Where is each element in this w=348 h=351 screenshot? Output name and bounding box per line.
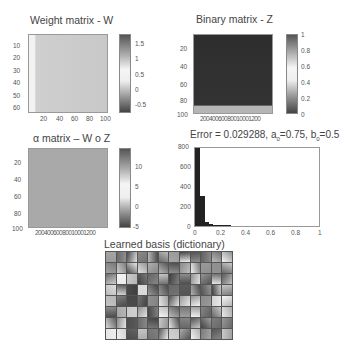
x-tick: 40 bbox=[56, 115, 63, 122]
basis-tile bbox=[106, 274, 116, 284]
basis-tile bbox=[212, 274, 222, 284]
basis-tile bbox=[201, 263, 211, 273]
basis-tile bbox=[169, 274, 179, 284]
x-tick: 0.4 bbox=[241, 229, 250, 236]
y-tick: 60 bbox=[13, 104, 20, 111]
basis-tile bbox=[180, 252, 190, 262]
colorbar-tick: 0 bbox=[135, 86, 139, 93]
y-tick: 100 bbox=[12, 225, 23, 232]
basis-tile bbox=[212, 318, 222, 328]
basis-tile bbox=[169, 307, 179, 317]
basis-tile bbox=[138, 252, 148, 262]
basis-tile bbox=[148, 274, 158, 284]
basis-tile bbox=[159, 263, 169, 273]
basis-tile bbox=[191, 307, 201, 317]
basis-tile bbox=[138, 296, 148, 306]
basis-tile bbox=[148, 307, 158, 317]
basis-tile bbox=[148, 263, 158, 273]
basis-tile bbox=[191, 296, 201, 306]
error-histogram-plot bbox=[194, 147, 320, 227]
colorbar-tick: 0.5 bbox=[135, 71, 144, 78]
basis-tile bbox=[117, 285, 127, 295]
basis-tile bbox=[159, 296, 169, 306]
basis-tile bbox=[106, 318, 116, 328]
colorbar-tick: 0.8 bbox=[301, 47, 310, 54]
basis-tile bbox=[201, 318, 211, 328]
basis-tile bbox=[180, 263, 190, 273]
basis-tile bbox=[138, 263, 148, 273]
basis-tile bbox=[159, 274, 169, 284]
dictionary-title: Learned basis (dictionary) bbox=[104, 238, 225, 250]
basis-tile bbox=[117, 252, 127, 262]
y-tick: 0 bbox=[187, 223, 191, 230]
binary-matrix-colorbar bbox=[286, 34, 298, 114]
basis-tile bbox=[180, 318, 190, 328]
x-tick: 60 bbox=[71, 115, 78, 122]
basis-tile bbox=[222, 329, 232, 339]
x-tick: 100 bbox=[100, 115, 111, 122]
alpha-matrix-title: α matrix – W o Z bbox=[33, 132, 110, 144]
y-tick: 10 bbox=[13, 42, 20, 49]
basis-tile bbox=[148, 329, 158, 339]
weight-matrix-title: Weight matrix - W bbox=[30, 14, 113, 26]
basis-tile bbox=[106, 285, 116, 295]
x-ticks: 20040060080010001200 bbox=[35, 229, 95, 236]
basis-tile bbox=[159, 252, 169, 262]
basis-tile bbox=[222, 263, 232, 273]
basis-tile bbox=[201, 285, 211, 295]
basis-tile bbox=[127, 252, 137, 262]
basis-tile bbox=[127, 329, 137, 339]
basis-tile bbox=[117, 274, 127, 284]
x-tick: 0.2 bbox=[216, 229, 225, 236]
y-tick: 80 bbox=[180, 97, 187, 104]
basis-tile bbox=[117, 263, 127, 273]
basis-tile bbox=[180, 329, 190, 339]
basis-tile bbox=[159, 318, 169, 328]
basis-tile bbox=[201, 274, 211, 284]
basis-tile bbox=[191, 274, 201, 284]
colorbar-tick: 1.5 bbox=[135, 40, 144, 47]
basis-tile bbox=[169, 296, 179, 306]
basis-tile bbox=[201, 296, 211, 306]
basis-tile bbox=[169, 285, 179, 295]
basis-tile bbox=[138, 274, 148, 284]
x-tick: 0.8 bbox=[291, 229, 300, 236]
basis-tile bbox=[191, 263, 201, 273]
colorbar-tick: 0 bbox=[301, 111, 305, 118]
basis-tile bbox=[180, 307, 190, 317]
basis-tile bbox=[169, 252, 179, 262]
alpha-matrix-colorbar bbox=[119, 148, 131, 228]
weight-matrix-plot bbox=[28, 34, 108, 113]
basis-tile bbox=[180, 296, 190, 306]
y-tick: 100 bbox=[177, 111, 188, 118]
error-histogram-title: Error = 0.029288, a0=0.75, b0=0.5 bbox=[190, 129, 339, 142]
basis-tile bbox=[127, 307, 137, 317]
basis-tile bbox=[169, 263, 179, 273]
basis-tile bbox=[138, 285, 148, 295]
y-tick: 50 bbox=[13, 92, 20, 99]
basis-tile bbox=[117, 296, 127, 306]
weight-matrix-colorbar bbox=[119, 34, 131, 113]
x-tick: 20 bbox=[40, 115, 47, 122]
basis-tile bbox=[159, 307, 169, 317]
y-tick: 800 bbox=[178, 143, 189, 150]
y-tick: 20 bbox=[14, 159, 21, 166]
colorbar-tick: 0.2 bbox=[301, 95, 310, 102]
basis-tile bbox=[159, 329, 169, 339]
basis-tile bbox=[212, 285, 222, 295]
y-tick: 40 bbox=[14, 176, 21, 183]
basis-tile bbox=[169, 329, 179, 339]
basis-tile bbox=[191, 318, 201, 328]
basis-tile bbox=[106, 263, 116, 273]
colorbar-tick: -0.5 bbox=[135, 101, 146, 108]
basis-tile bbox=[201, 329, 211, 339]
basis-tile bbox=[222, 307, 232, 317]
basis-tile bbox=[148, 285, 158, 295]
basis-tile bbox=[222, 296, 232, 306]
x-ticks: 20040060080010001200 bbox=[200, 115, 260, 122]
basis-tile bbox=[138, 307, 148, 317]
basis-tile bbox=[148, 318, 158, 328]
basis-tile bbox=[127, 263, 137, 273]
basis-tile bbox=[127, 296, 137, 306]
basis-tile bbox=[222, 285, 232, 295]
